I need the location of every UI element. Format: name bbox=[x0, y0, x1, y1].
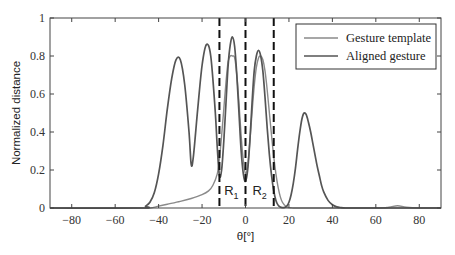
chart: −80−60−40−2002040608000.20.40.60.81 R1R2… bbox=[0, 0, 455, 255]
y-tick-label: 0 bbox=[39, 201, 45, 215]
region-label-subscript: 2 bbox=[262, 191, 267, 201]
x-tick-label: 0 bbox=[243, 213, 249, 227]
x-tick-label: 60 bbox=[370, 213, 382, 227]
y-axis-label: Normalized distance bbox=[10, 61, 22, 165]
x-tick-label: −80 bbox=[62, 213, 81, 227]
y-tick-label: 0.8 bbox=[30, 49, 45, 63]
y-tick-label: 0.4 bbox=[30, 125, 45, 139]
x-tick-label: 80 bbox=[413, 213, 425, 227]
y-tick-label: 0.6 bbox=[30, 87, 45, 101]
legend: Gesture templateAligned gesture bbox=[296, 24, 436, 69]
x-tick-label: 20 bbox=[283, 213, 295, 227]
x-tick-label: 40 bbox=[326, 213, 338, 227]
y-tick-label: 0.2 bbox=[30, 163, 45, 177]
x-tick-label: −40 bbox=[149, 213, 168, 227]
region-label-subscript: 1 bbox=[234, 191, 239, 201]
legend-entry-label: Aligned gesture bbox=[346, 49, 426, 63]
x-axis-label: θ[°] bbox=[237, 230, 254, 242]
x-tick-label: −60 bbox=[106, 213, 125, 227]
y-tick-label: 1 bbox=[39, 11, 45, 25]
x-tick-label: −20 bbox=[193, 213, 212, 227]
legend-entry-label: Gesture template bbox=[346, 31, 431, 45]
